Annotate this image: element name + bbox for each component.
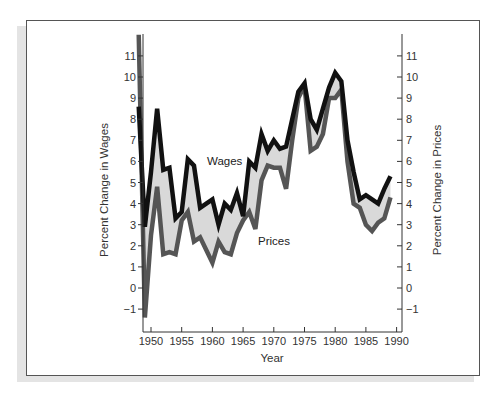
right-y-tick-label: 6 <box>406 155 412 167</box>
left-y-tick-label: 10 <box>124 71 136 83</box>
left-y-tick-label: 1 <box>130 261 136 273</box>
wages-series-label: Wages <box>207 155 243 167</box>
left-y-tick-label: 2 <box>130 240 136 252</box>
x-tick-label: 1980 <box>323 335 347 347</box>
x-tick-label: 1955 <box>169 335 193 347</box>
x-tick-label: 1960 <box>200 335 224 347</box>
x-tick-label: 1985 <box>354 335 378 347</box>
left-y-tick-label: 4 <box>130 198 136 210</box>
x-tick-label: 1975 <box>292 335 316 347</box>
right-y-tick-label: −1 <box>406 303 419 315</box>
x-tick-label: 1970 <box>262 335 286 347</box>
right-y-tick-label: 11 <box>406 50 417 62</box>
left-y-tick-label: 9 <box>130 92 136 104</box>
right-y-axis-title: Percent Change in Prices <box>431 125 443 256</box>
left-y-axis-title: Percent Change in Wages <box>98 123 110 257</box>
right-y-tick-label: 8 <box>406 113 412 125</box>
x-axis-title: Year <box>260 352 283 364</box>
right-y-tick-label: 1 <box>406 261 412 273</box>
right-y-tick-label: 0 <box>406 282 412 294</box>
left-y-tick-label: 6 <box>130 155 136 167</box>
right-y-tick-label: 3 <box>406 219 412 231</box>
right-y-tick-label: 10 <box>406 71 418 83</box>
x-tick-label: 1965 <box>231 335 255 347</box>
left-y-tick-label: −1 <box>123 303 136 315</box>
left-y-tick-label: 8 <box>130 113 136 125</box>
right-y-tick-label: 5 <box>406 177 412 189</box>
right-y-tick-label: 7 <box>406 134 412 146</box>
line-chart: −1−1001122334455667788991010111119501955… <box>0 0 503 401</box>
right-y-tick-label: 9 <box>406 92 412 104</box>
series-lines <box>139 35 391 318</box>
x-tick-label: 1990 <box>384 335 408 347</box>
left-y-tick-label: 0 <box>130 282 136 294</box>
left-y-tick-label: 7 <box>130 134 136 146</box>
left-y-tick-label: 5 <box>130 177 136 189</box>
right-y-tick-label: 4 <box>406 198 412 210</box>
right-y-tick-label: 2 <box>406 240 412 252</box>
left-y-tick-label: 11 <box>125 50 136 62</box>
x-tick-label: 1950 <box>139 335 163 347</box>
prices-series-label: Prices <box>258 235 290 247</box>
left-y-tick-label: 3 <box>130 219 136 231</box>
